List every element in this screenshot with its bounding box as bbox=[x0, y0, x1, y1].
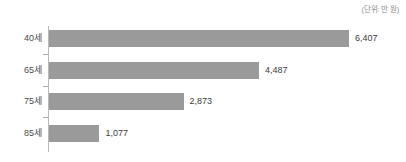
category-label: 65세 bbox=[0, 62, 42, 79]
category-label: 40세 bbox=[0, 30, 42, 47]
bar-row: 85세1,077 bbox=[0, 125, 406, 142]
bar-row: 40세6,407 bbox=[0, 30, 406, 47]
bar-row: 65세4,487 bbox=[0, 62, 406, 79]
axis-tick bbox=[43, 117, 48, 118]
axis-tick bbox=[43, 54, 48, 55]
bar-segment bbox=[49, 93, 184, 110]
bar-row: 75세2,873 bbox=[0, 93, 406, 110]
bar-value-label: 4,487 bbox=[265, 62, 288, 79]
bar-segment bbox=[49, 62, 259, 79]
category-label: 85세 bbox=[0, 125, 42, 142]
unit-note-label: (단위: 만 원) bbox=[362, 3, 399, 14]
bar-value-label: 1,077 bbox=[105, 125, 128, 142]
bar-segment bbox=[49, 30, 349, 47]
bar-value-label: 2,873 bbox=[190, 93, 213, 110]
category-label: 75세 bbox=[0, 93, 42, 110]
axis-tick bbox=[43, 86, 48, 87]
bar-chart: (단위: 만 원) 40세6,40765세4,48775세2,87385세1,0… bbox=[0, 0, 406, 162]
bar-value-label: 6,407 bbox=[355, 30, 378, 47]
plot-area: 40세6,40765세4,48775세2,87385세1,077 bbox=[0, 26, 406, 152]
bar-segment bbox=[49, 125, 99, 142]
